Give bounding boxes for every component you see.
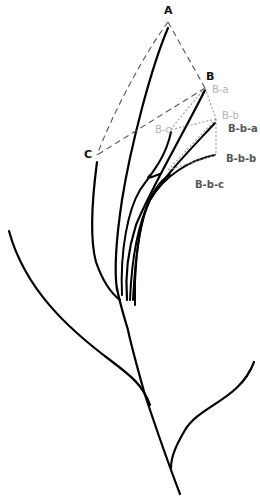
branching-diagram: A B C B-a B-b B-c B-b-a B-b-b B-b-c (0, 0, 260, 501)
label-a: A (164, 4, 173, 17)
label-b-b-a: B-b-a (228, 123, 258, 134)
label-b: B (206, 70, 214, 83)
link-a-b (168, 22, 205, 88)
label-b-b: B-b (222, 110, 239, 121)
label-b-b-c: B-b-c (195, 179, 224, 190)
stem-b-c (122, 132, 171, 295)
stem-b-b-c (135, 175, 170, 305)
label-b-c: B-c (155, 124, 171, 135)
label-b-a: B-a (212, 84, 229, 95)
label-b-b-b: B-b-b (226, 153, 256, 164)
link-a-c (97, 22, 168, 155)
label-c: C (84, 148, 92, 161)
stem-b-b-b (133, 155, 215, 300)
lower-right-branch (171, 362, 254, 468)
